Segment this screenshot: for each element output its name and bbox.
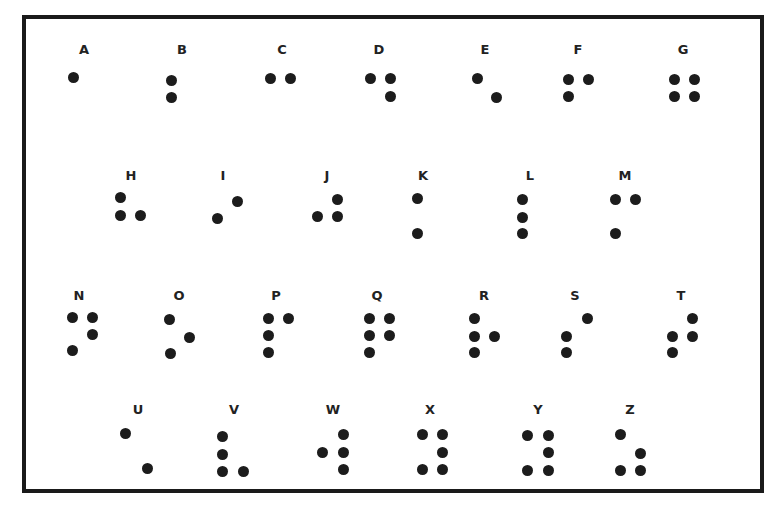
braille-dot — [332, 211, 343, 222]
letter-label: E — [470, 43, 500, 57]
braille-dot — [543, 465, 554, 476]
braille-dot — [437, 447, 448, 458]
braille-dot — [338, 429, 349, 440]
braille-dot — [385, 91, 396, 102]
braille-dot — [417, 429, 428, 440]
braille-dot — [263, 313, 274, 324]
braille-dot — [522, 430, 533, 441]
braille-dot — [517, 194, 528, 205]
letter-label: G — [668, 43, 698, 57]
braille-dot — [522, 465, 533, 476]
braille-dot — [667, 347, 678, 358]
letter-label: T — [666, 289, 696, 303]
braille-chart-frame — [22, 15, 764, 493]
braille-dot — [283, 313, 294, 324]
braille-dot — [561, 347, 572, 358]
braille-dot — [669, 91, 680, 102]
braille-dot — [615, 429, 626, 440]
letter-label: U — [123, 403, 153, 417]
letter-label: O — [164, 289, 194, 303]
braille-dot — [469, 347, 480, 358]
braille-dot — [364, 330, 375, 341]
braille-dot — [87, 329, 98, 340]
braille-dot — [166, 75, 177, 86]
braille-dot — [265, 73, 276, 84]
braille-dot — [285, 73, 296, 84]
braille-dot — [543, 430, 554, 441]
braille-dot — [385, 73, 396, 84]
braille-dot — [610, 194, 621, 205]
letter-label: Z — [615, 403, 645, 417]
braille-dot — [217, 449, 228, 460]
braille-dot — [312, 211, 323, 222]
braille-dot — [615, 465, 626, 476]
braille-dot — [212, 213, 223, 224]
braille-dot — [517, 212, 528, 223]
braille-dot — [489, 331, 500, 342]
braille-dot — [635, 448, 646, 459]
letter-label: H — [116, 169, 146, 183]
letter-label: D — [364, 43, 394, 57]
braille-dot — [338, 447, 349, 458]
letter-label: L — [515, 169, 545, 183]
braille-dot — [437, 464, 448, 475]
braille-dot — [68, 72, 79, 83]
braille-dot — [472, 73, 483, 84]
letter-label: A — [69, 43, 99, 57]
braille-dot — [263, 330, 274, 341]
braille-dot — [67, 345, 78, 356]
braille-dot — [412, 193, 423, 204]
braille-dot — [689, 91, 700, 102]
braille-dot — [582, 313, 593, 324]
braille-dot — [365, 73, 376, 84]
braille-dot — [142, 463, 153, 474]
braille-dot — [635, 465, 646, 476]
braille-dot — [232, 196, 243, 207]
braille-dot — [583, 74, 594, 85]
braille-dot — [115, 192, 126, 203]
braille-dot — [630, 194, 641, 205]
letter-label: C — [267, 43, 297, 57]
braille-dot — [317, 447, 328, 458]
braille-dot — [437, 429, 448, 440]
braille-dot — [469, 313, 480, 324]
braille-dot — [412, 228, 423, 239]
braille-dot — [491, 92, 502, 103]
braille-dot — [166, 92, 177, 103]
braille-dot — [217, 431, 228, 442]
braille-dot — [563, 91, 574, 102]
braille-dot — [184, 332, 195, 343]
braille-dot — [667, 331, 678, 342]
braille-dot — [689, 74, 700, 85]
braille-dot — [561, 331, 572, 342]
letter-label: R — [469, 289, 499, 303]
letter-label: I — [208, 169, 238, 183]
braille-dot — [610, 228, 621, 239]
letter-label: N — [64, 289, 94, 303]
braille-dot — [543, 447, 554, 458]
letter-label: B — [167, 43, 197, 57]
letter-label: J — [312, 169, 342, 183]
braille-dot — [384, 313, 395, 324]
letter-label: F — [563, 43, 593, 57]
braille-dot — [165, 348, 176, 359]
braille-dot — [687, 313, 698, 324]
braille-dot — [417, 464, 428, 475]
braille-dot — [263, 347, 274, 358]
letter-label: Q — [362, 289, 392, 303]
braille-dot — [332, 194, 343, 205]
letter-label: K — [408, 169, 438, 183]
braille-dot — [67, 312, 78, 323]
braille-dot — [238, 466, 249, 477]
letter-label: S — [560, 289, 590, 303]
braille-dot — [87, 312, 98, 323]
letter-label: Y — [523, 403, 553, 417]
braille-dot — [384, 330, 395, 341]
braille-dot — [469, 331, 480, 342]
braille-dot — [135, 210, 146, 221]
letter-label: V — [219, 403, 249, 417]
letter-label: P — [261, 289, 291, 303]
letter-label: M — [610, 169, 640, 183]
braille-dot — [164, 314, 175, 325]
braille-dot — [338, 464, 349, 475]
